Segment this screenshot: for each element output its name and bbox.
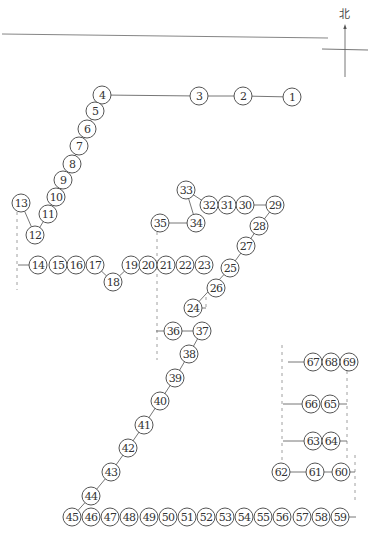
station-node-29: 29 [266,196,284,214]
node-label: 37 [196,325,209,338]
node-label: 25 [224,262,237,275]
node-label: 63 [307,435,320,448]
station-node-68: 68 [322,353,340,371]
node-label: 16 [70,259,83,272]
station-node-1: 1 [283,88,301,106]
station-node-45: 45 [63,508,81,526]
station-node-67: 67 [304,353,322,371]
station-node-22: 22 [176,256,194,274]
station-node-21: 21 [157,256,175,274]
station-node-24: 24 [184,299,202,317]
station-node-5: 5 [86,102,104,120]
node-label: 42 [122,442,134,455]
node-label: 20 [142,259,155,272]
station-node-10: 10 [47,188,65,206]
node-label: 32 [203,199,215,212]
node-label: 17 [89,259,102,272]
station-node-59: 59 [331,508,349,526]
node-label: 48 [123,511,136,524]
station-node-17: 17 [86,256,104,274]
node-label: 52 [200,511,212,524]
station-nodes: 1234567891011121314151617181920212223242… [12,86,358,526]
node-label: 64 [325,435,338,448]
node-label: 30 [239,199,252,212]
station-node-8: 8 [63,155,81,173]
station-node-18: 18 [104,273,122,291]
station-node-7: 7 [70,137,88,155]
node-label: 56 [276,511,289,524]
station-node-43: 43 [102,463,120,481]
station-node-25: 25 [221,259,239,277]
node-label: 58 [315,511,328,524]
node-label: 9 [60,174,67,187]
station-node-39: 39 [166,369,184,387]
node-label: 26 [210,282,223,295]
compass-horizontal-line [322,49,368,50]
station-node-32: 32 [200,196,218,214]
node-label: 54 [238,511,251,524]
station-node-58: 58 [312,508,330,526]
station-node-48: 48 [120,508,138,526]
node-label: 21 [160,259,172,272]
station-node-47: 47 [101,508,119,526]
station-node-60: 60 [332,463,350,481]
edge-3-4 [102,95,199,96]
station-node-56: 56 [273,508,291,526]
station-node-46: 46 [82,508,100,526]
station-node-2: 2 [234,87,252,105]
node-label: 29 [269,199,282,212]
station-node-4: 4 [93,86,111,104]
node-label: 19 [125,259,138,272]
node-label: 27 [240,240,253,253]
node-label: 18 [107,276,120,289]
station-node-42: 42 [119,439,137,457]
station-node-57: 57 [293,508,311,526]
station-node-28: 28 [250,217,268,235]
node-label: 41 [138,419,150,432]
node-label: 51 [181,511,193,524]
station-node-63: 63 [304,432,322,450]
node-label: 38 [183,348,196,361]
node-label: 3 [196,90,203,103]
node-label: 2 [240,90,246,103]
node-label: 24 [187,302,200,315]
node-label: 47 [104,511,117,524]
station-node-15: 15 [49,256,67,274]
node-label: 1 [289,91,295,104]
station-node-11: 11 [39,205,57,223]
station-node-66: 66 [302,395,320,413]
node-label: 43 [105,466,118,479]
station-node-3: 3 [190,87,208,105]
station-node-12: 12 [26,226,44,244]
station-node-52: 52 [197,508,215,526]
station-node-44: 44 [82,487,100,505]
station-node-53: 53 [216,508,234,526]
station-node-64: 64 [322,432,340,450]
station-node-19: 19 [122,256,140,274]
compass-arrow-icon [343,24,346,29]
north-compass-icon: 北 [322,8,368,77]
node-label: 22 [179,259,191,272]
node-label: 34 [190,217,203,230]
station-node-35: 35 [151,214,169,232]
station-node-14: 14 [29,256,47,274]
node-label: 68 [325,356,338,369]
node-label: 46 [85,511,98,524]
node-label: 23 [198,259,211,272]
station-node-61: 61 [306,463,324,481]
station-node-16: 16 [67,256,85,274]
station-node-30: 30 [236,196,254,214]
station-node-49: 49 [140,508,158,526]
node-label: 31 [221,199,233,212]
node-label: 40 [154,395,167,408]
station-node-38: 38 [180,345,198,363]
node-label: 6 [84,123,91,136]
node-label: 5 [92,105,99,118]
station-node-51: 51 [178,508,196,526]
node-label: 12 [29,229,41,242]
node-label: 8 [69,158,76,171]
node-label: 11 [42,208,54,221]
node-label: 65 [324,398,337,411]
node-label: 35 [154,217,167,230]
node-label: 44 [85,490,98,503]
